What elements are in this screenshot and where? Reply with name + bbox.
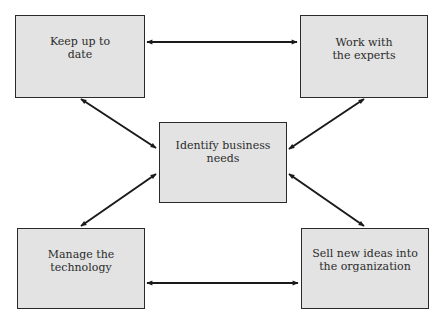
node-work-with-the-experts: Work with the experts bbox=[300, 15, 428, 98]
node-label-line: needs bbox=[160, 152, 286, 165]
node-identify-business-needs: Identify business needs bbox=[159, 122, 287, 203]
node-label-line: Identify business bbox=[160, 139, 286, 152]
node-label-line: date bbox=[16, 48, 144, 61]
arrow-bottom-right-to-center bbox=[289, 174, 364, 226]
node-label: Identify business needs bbox=[160, 139, 286, 165]
node-label: Work with the experts bbox=[301, 36, 427, 62]
node-label-line: technology bbox=[18, 261, 144, 274]
arrow-top-left-to-center bbox=[81, 99, 156, 148]
node-label-line: Sell new ideas into bbox=[302, 247, 428, 260]
node-manage-the-technology: Manage the technology bbox=[17, 228, 145, 309]
node-label-line: Manage the bbox=[18, 248, 144, 261]
node-label-line: the experts bbox=[301, 49, 427, 62]
arrow-bottom-left-to-center bbox=[81, 174, 156, 226]
node-label-line: Work with bbox=[301, 36, 427, 49]
node-label-line: the organization bbox=[302, 260, 428, 273]
node-label: Sell new ideas into the organization bbox=[302, 247, 428, 273]
node-label-line: Keep up to bbox=[16, 35, 144, 48]
arrow-top-right-to-center bbox=[289, 99, 364, 149]
node-sell-new-ideas: Sell new ideas into the organization bbox=[301, 228, 429, 309]
node-label: Manage the technology bbox=[18, 248, 144, 274]
node-label: Keep up to date bbox=[16, 35, 144, 61]
node-keep-up-to-date: Keep up to date bbox=[15, 15, 145, 98]
